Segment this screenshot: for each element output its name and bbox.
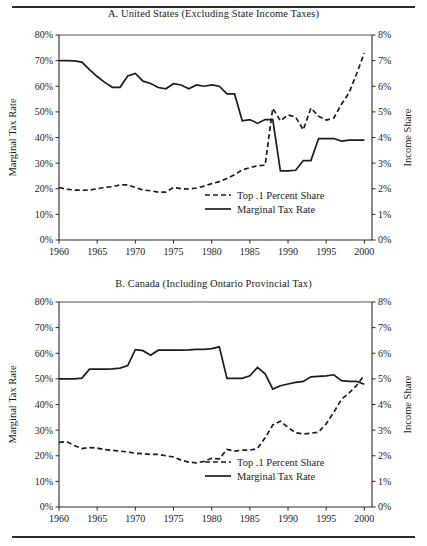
right-axis-tick-label: 8% [378, 29, 391, 40]
left-axis-tick-label: 30% [35, 425, 53, 436]
right-axis-tick-label: 4% [378, 399, 391, 410]
x-axis-tick-label: 1995 [316, 513, 336, 524]
x-axis-tick-label: 1965 [87, 246, 107, 257]
left-axis-title: Marginal Tax Rate [7, 98, 18, 177]
left-axis-title: Marginal Tax Rate [7, 365, 18, 444]
x-axis-tick-label: 1985 [240, 246, 260, 257]
legend-label-marginal-tax-rate: Marginal Tax Rate [237, 471, 316, 482]
series-line-top-1-percent-share [59, 375, 364, 463]
right-axis-tick-label: 3% [378, 158, 391, 169]
right-axis-tick-label: 2% [378, 450, 391, 461]
right-axis-tick-label: 6% [378, 81, 391, 92]
left-axis-tick-label: 60% [35, 81, 53, 92]
left-axis-tick-label: 40% [35, 399, 53, 410]
right-axis-tick-label: 1% [378, 209, 391, 220]
right-axis-tick-label: 0% [378, 234, 391, 245]
right-axis-tick-label: 7% [378, 55, 391, 66]
left-axis-tick-label: 10% [35, 476, 53, 487]
left-axis-tick-label: 30% [35, 158, 53, 169]
right-axis-tick-label: 8% [378, 296, 391, 307]
left-axis-tick-label: 60% [35, 348, 53, 359]
left-axis-tick-label: 50% [35, 106, 53, 117]
left-axis-tick-label: 40% [35, 132, 53, 143]
chart-panel-a: A. United States (Excluding State Income… [0, 8, 427, 270]
x-axis-tick-label: 1970 [125, 246, 145, 257]
x-axis-tick-label: 1980 [202, 513, 222, 524]
bottom-horizontal-rule [12, 536, 415, 538]
chart-panel-b: B. Canada (Including Ontario Provincial … [0, 278, 427, 534]
x-axis-tick-label: 1970 [125, 513, 145, 524]
right-axis-tick-label: 3% [378, 425, 391, 436]
left-axis-tick-label: 0% [40, 501, 53, 512]
x-axis-tick-label: 1990 [278, 513, 298, 524]
panel-b-plot: 0%10%20%30%40%50%60%70%80%0%1%2%3%4%5%6%… [0, 278, 427, 534]
panel-a-plot: 0%10%20%30%40%50%60%70%80%0%1%2%3%4%5%6%… [0, 8, 427, 270]
x-axis-tick-label: 1960 [49, 513, 69, 524]
x-axis-tick-label: 1975 [164, 513, 184, 524]
left-axis-tick-label: 70% [35, 322, 53, 333]
left-axis-tick-label: 10% [35, 209, 53, 220]
x-axis-tick-label: 1995 [316, 246, 336, 257]
left-axis-tick-label: 50% [35, 373, 53, 384]
x-axis-tick-label: 1990 [278, 246, 298, 257]
right-axis-tick-label: 6% [378, 348, 391, 359]
legend-label-top-1-percent-share: Top .1 Percent Share [237, 457, 325, 468]
left-axis-tick-label: 20% [35, 450, 53, 461]
right-axis-tick-label: 7% [378, 322, 391, 333]
x-axis-tick-label: 1980 [202, 246, 222, 257]
left-axis-tick-label: 80% [35, 296, 53, 307]
right-axis-title: Income Share [402, 108, 413, 166]
right-axis-tick-label: 5% [378, 373, 391, 384]
series-line-marginal-tax-rate [59, 347, 364, 389]
x-axis-tick-label: 2000 [354, 513, 374, 524]
right-axis-tick-label: 5% [378, 106, 391, 117]
legend-label-marginal-tax-rate: Marginal Tax Rate [237, 204, 316, 215]
x-axis-tick-label: 1975 [164, 246, 184, 257]
right-axis-tick-label: 1% [378, 476, 391, 487]
left-axis-tick-label: 80% [35, 29, 53, 40]
left-axis-tick-label: 0% [40, 234, 53, 245]
x-axis-tick-label: 1965 [87, 513, 107, 524]
legend-label-top-1-percent-share: Top .1 Percent Share [237, 190, 325, 201]
right-axis-tick-label: 4% [378, 132, 391, 143]
x-axis-tick-label: 1960 [49, 246, 69, 257]
x-axis-tick-label: 2000 [354, 246, 374, 257]
left-axis-tick-label: 20% [35, 183, 53, 194]
right-axis-tick-label: 0% [378, 501, 391, 512]
figure-container: A. United States (Excluding State Income… [0, 0, 427, 546]
right-axis-tick-label: 2% [378, 183, 391, 194]
right-axis-title: Income Share [402, 375, 413, 433]
series-line-top-1-percent-share [59, 53, 364, 192]
x-axis-tick-label: 1985 [240, 513, 260, 524]
left-axis-tick-label: 70% [35, 55, 53, 66]
